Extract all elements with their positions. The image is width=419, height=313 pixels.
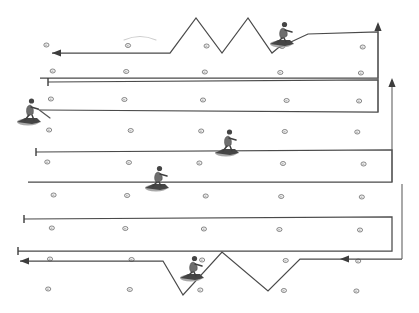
marker-dot — [283, 258, 288, 262]
marker-dot — [127, 287, 132, 291]
marker-dot — [48, 97, 53, 101]
coverage-path-figure — [0, 0, 419, 313]
marker-dot — [128, 128, 133, 132]
figure-head — [282, 22, 287, 27]
figure-head — [227, 129, 232, 134]
marker-dot — [125, 193, 130, 197]
marker-dot — [282, 129, 287, 133]
marker-dot — [284, 98, 289, 102]
marker-dot — [357, 228, 362, 232]
marker-dot — [361, 162, 366, 166]
marker-dot — [278, 70, 283, 74]
marker-dot — [123, 226, 128, 230]
figure-head — [192, 256, 197, 261]
marker-dot — [49, 226, 54, 230]
marker-dot — [199, 129, 204, 133]
marker-dot — [280, 161, 285, 165]
figure-head — [29, 98, 34, 103]
marker-dot — [204, 44, 209, 48]
marker-dot — [359, 195, 364, 199]
marker-dot — [200, 98, 205, 102]
marker-dot — [47, 128, 52, 132]
figure-head — [157, 166, 162, 171]
marker-dot — [124, 69, 129, 73]
marker-dot — [357, 99, 362, 103]
marker-dot — [45, 160, 50, 164]
marker-dot — [50, 69, 55, 73]
figure-canvas — [0, 0, 419, 313]
marker-dot — [198, 288, 203, 292]
marker-dot — [281, 288, 286, 292]
marker-dot — [125, 43, 130, 47]
marker-dot — [203, 194, 208, 198]
marker-dot — [201, 227, 206, 231]
marker-dot — [197, 161, 202, 165]
marker-dot — [354, 289, 359, 293]
marker-dot — [360, 45, 365, 49]
marker-dot — [46, 287, 51, 291]
marker-dot — [277, 227, 282, 231]
marker-dot — [355, 130, 360, 134]
marker-dot — [202, 70, 207, 74]
marker-dot — [122, 97, 127, 101]
marker-dot — [126, 160, 131, 164]
marker-dot — [358, 71, 363, 75]
marker-dot — [51, 193, 56, 197]
marker-dot — [44, 43, 49, 47]
marker-dot — [200, 258, 205, 262]
marker-dot — [279, 194, 284, 198]
